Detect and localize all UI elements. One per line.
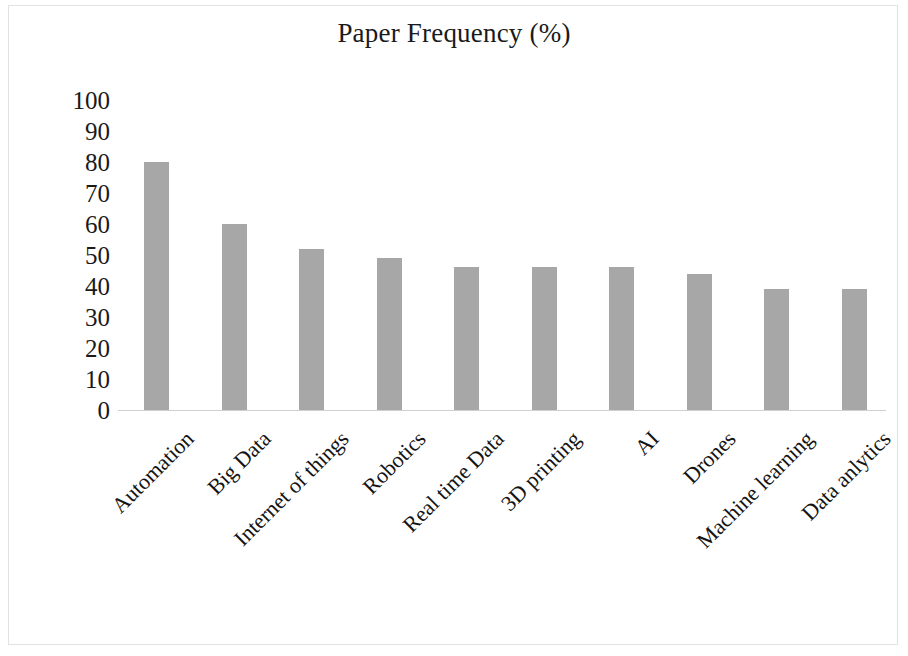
y-tick-label: 40 [50, 274, 110, 299]
bar-slot [299, 100, 324, 410]
bar[interactable] [299, 249, 324, 410]
plot-area [118, 100, 893, 410]
bar[interactable] [377, 258, 402, 410]
y-tick-label: 60 [50, 212, 110, 237]
bar[interactable] [687, 274, 712, 410]
bar-slot [144, 100, 169, 410]
y-tick-label: 100 [50, 88, 110, 113]
x-tick-label: Automation [106, 426, 199, 519]
bar[interactable] [532, 267, 557, 410]
bar[interactable] [222, 224, 247, 410]
x-tick-label: AI [629, 426, 664, 461]
bar-chart-figure: Paper Frequency (%) 10090807060504030201… [0, 0, 908, 656]
bar-slot [454, 100, 479, 410]
x-axis-line [118, 410, 886, 411]
bar[interactable] [609, 267, 634, 410]
chart-title: Paper Frequency (%) [0, 18, 908, 49]
bar-slot [222, 100, 247, 410]
bar[interactable] [842, 289, 867, 410]
x-tick-label: Big Data [203, 426, 277, 500]
bar-slot [609, 100, 634, 410]
y-tick-label: 0 [50, 398, 110, 423]
y-axis: 1009080706050403020100 [48, 0, 110, 656]
bar[interactable] [144, 162, 169, 410]
bar-slot [532, 100, 557, 410]
bar[interactable] [764, 289, 789, 410]
bar-slot [377, 100, 402, 410]
y-tick-label: 90 [50, 119, 110, 144]
y-tick-label: 70 [50, 181, 110, 206]
bar-slot [764, 100, 789, 410]
bar-slot [687, 100, 712, 410]
y-tick-label: 80 [50, 150, 110, 175]
y-tick-label: 30 [50, 305, 110, 330]
x-tick-label: Drones [678, 426, 741, 489]
x-tick-label: Robotics [358, 426, 432, 500]
x-tick-label: 3D printing [496, 426, 587, 517]
y-tick-label: 50 [50, 243, 110, 268]
bar-slot [842, 100, 867, 410]
y-tick-label: 20 [50, 336, 110, 361]
y-tick-label: 10 [50, 367, 110, 392]
bar[interactable] [454, 267, 479, 410]
